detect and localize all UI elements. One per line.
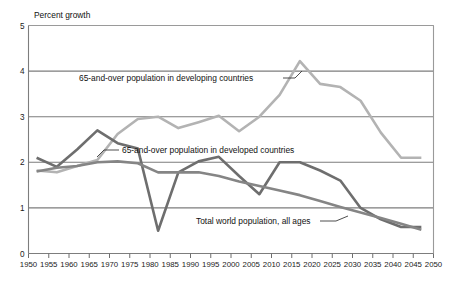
x-tick-label-2015: 2015: [283, 260, 300, 269]
x-tick-label-1985: 1985: [162, 260, 179, 269]
y-axis-tick-labels: 012345: [20, 22, 25, 259]
x-tick-label-2020: 2020: [303, 260, 320, 269]
line-chart: 1950195519601965197019751980198519901995…: [0, 0, 449, 285]
x-tick-label-2050: 2050: [425, 260, 442, 269]
x-tick-label-2040: 2040: [384, 260, 401, 269]
x-tick-label-1965: 1965: [81, 260, 98, 269]
x-axis-tick-labels: 1950195519601965197019751980198519901995…: [20, 260, 442, 269]
x-tick-label-2000: 2000: [222, 260, 239, 269]
x-tick-label-1975: 1975: [121, 260, 138, 269]
y-tick-label-2: 2: [20, 158, 25, 167]
x-tick-label-2030: 2030: [344, 260, 361, 269]
x-tick-label-1990: 1990: [182, 260, 199, 269]
x-tick-label-1955: 1955: [40, 260, 57, 269]
y-tick-label-4: 4: [20, 67, 25, 76]
x-tick-label-2005: 2005: [243, 260, 260, 269]
annotation-leader-line-2: [320, 216, 348, 221]
y-tick-label-5: 5: [20, 22, 25, 31]
x-tick-label-1995: 1995: [202, 260, 219, 269]
y-tick-label-3: 3: [20, 113, 25, 122]
series-annotation-label-2: Total world population, all ages: [196, 216, 311, 226]
x-axis-ticks: [29, 254, 434, 259]
series-annotation-label-0: 65-and-over population in developing cou…: [79, 73, 253, 83]
x-tick-label-2035: 2035: [364, 260, 381, 269]
series-annotations: 65-and-over population in developing cou…: [79, 71, 348, 226]
x-tick-label-1950: 1950: [20, 260, 37, 269]
y-tick-label-0: 0: [20, 250, 25, 259]
x-tick-label-2010: 2010: [263, 260, 280, 269]
x-tick-label-2025: 2025: [324, 260, 341, 269]
y-axis-title: Percent growth: [34, 10, 91, 20]
x-tick-label-2045: 2045: [405, 260, 422, 269]
chart-container: 1950195519601965197019751980198519901995…: [0, 0, 449, 285]
x-tick-label-1960: 1960: [60, 260, 77, 269]
x-tick-label-1970: 1970: [101, 260, 118, 269]
y-tick-label-1: 1: [20, 204, 25, 213]
series-annotation-label-1: 65-and-over population in developed coun…: [122, 145, 294, 155]
x-tick-label-1980: 1980: [141, 260, 158, 269]
